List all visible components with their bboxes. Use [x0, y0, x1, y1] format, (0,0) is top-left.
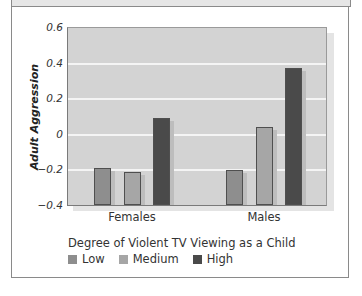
- legend: Low Medium High: [68, 252, 247, 266]
- legend-item-high: High: [193, 252, 233, 266]
- y-axis-label: Adult Aggression: [28, 64, 41, 170]
- gridline-0.4: [68, 63, 326, 65]
- legend-swatch-low: [68, 255, 77, 264]
- y-tick-neg-0.4: −0.4: [23, 199, 63, 211]
- legend-label-low: Low: [82, 252, 105, 266]
- y-tick-0: 0: [23, 128, 63, 140]
- bar-females-high: [153, 118, 170, 205]
- bar-shadow: [111, 171, 115, 205]
- bar-shadow: [141, 175, 145, 206]
- legend-title: Degree of Violent TV Viewing as a Child: [68, 236, 296, 250]
- bar-males-high: [285, 68, 302, 205]
- legend-swatch-medium: [119, 255, 128, 264]
- x-category-females: Females: [92, 210, 172, 224]
- legend-label-high: High: [207, 252, 233, 266]
- bar-shadow: [170, 121, 174, 205]
- y-tick-0.4: 0.4: [23, 57, 63, 69]
- bar-shadow: [243, 173, 247, 206]
- bar-males-medium: [256, 127, 273, 205]
- y-tick-0.6: 0.6: [23, 21, 63, 33]
- y-tick-0.2: 0.2: [23, 92, 63, 104]
- legend-swatch-high: [193, 255, 202, 264]
- bar-males-low: [226, 170, 243, 206]
- legend-item-medium: Medium: [119, 252, 179, 266]
- legend-label-medium: Medium: [133, 252, 179, 266]
- bar-shadow: [273, 130, 277, 205]
- bar-shadow: [302, 71, 306, 205]
- header-band: [11, 0, 351, 7]
- y-tick-neg-0.2: −0.2: [23, 163, 63, 175]
- bar-females-low: [94, 168, 111, 205]
- bar-females-medium: [124, 172, 141, 206]
- x-category-males: Males: [224, 210, 304, 224]
- legend-item-low: Low: [68, 252, 105, 266]
